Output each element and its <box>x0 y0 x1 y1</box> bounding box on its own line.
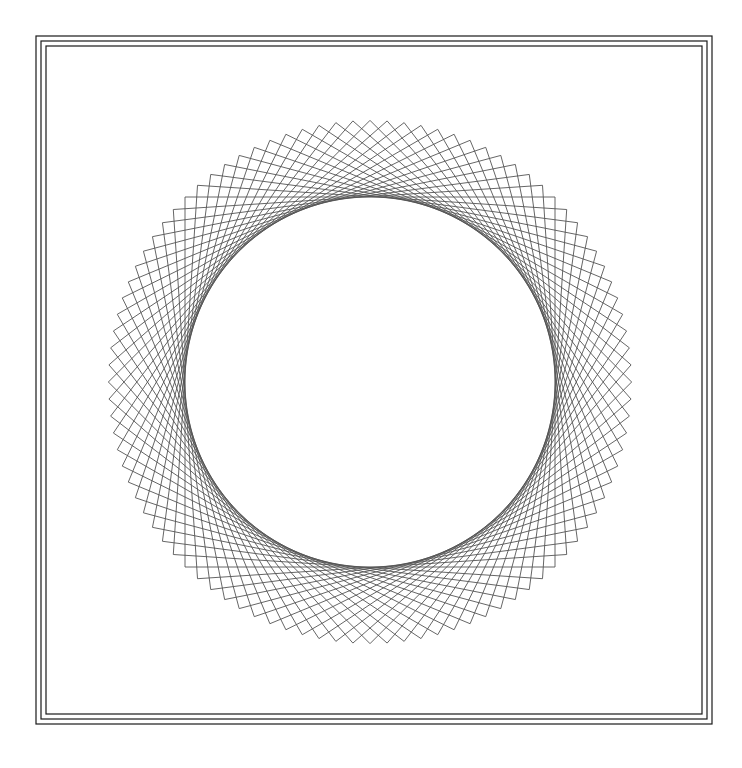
geometric-figure <box>0 0 742 768</box>
artboard <box>0 0 742 768</box>
page-background <box>0 0 742 768</box>
